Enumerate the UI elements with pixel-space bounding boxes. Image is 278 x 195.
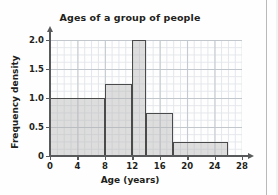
chart-title: Ages of a group of people — [0, 12, 260, 23]
y-tick-label: 1.0 — [29, 93, 44, 103]
x-axis-line — [49, 155, 249, 157]
x-tick-label: 20 — [181, 161, 193, 171]
x-tick-label: 12 — [126, 161, 138, 171]
page-edge-shadow — [276, 0, 278, 195]
x-tick-mark — [50, 156, 51, 160]
plot-area — [50, 40, 242, 156]
histogram-bar — [146, 113, 173, 157]
y-tick-label: 0.5 — [29, 122, 44, 132]
y-tick-mark — [46, 40, 50, 41]
y-axis-arrow-icon — [47, 26, 53, 32]
histogram-bar — [132, 40, 146, 156]
x-tick-mark — [187, 156, 188, 160]
y-axis-line — [49, 32, 51, 157]
y-tick-label: 2.0 — [29, 35, 44, 45]
x-axis-arrow-icon — [248, 153, 254, 159]
page-edge-rule — [266, 0, 267, 195]
x-axis-title: Age (years) — [0, 175, 260, 185]
x-tick-label: 8 — [102, 161, 108, 171]
x-tick-label: 4 — [74, 161, 80, 171]
y-axis-title: Frequency density — [10, 42, 20, 162]
x-tick-mark — [242, 156, 243, 160]
x-tick-mark — [215, 156, 216, 160]
x-tick-mark — [160, 156, 161, 160]
y-tick-label: 1.5 — [29, 64, 44, 74]
histogram-bar — [173, 142, 228, 157]
histogram-bar — [50, 98, 105, 156]
y-tick-mark — [46, 69, 50, 70]
x-tick-mark — [132, 156, 133, 160]
x-tick-label: 24 — [209, 161, 221, 171]
y-tick-mark — [46, 98, 50, 99]
histogram-bar — [105, 84, 132, 157]
chart-figure: Ages of a group of people 0481216202428 … — [0, 0, 278, 195]
y-tick-mark — [46, 156, 50, 157]
y-tick-mark — [46, 127, 50, 128]
y-tick-label: 0 — [38, 151, 44, 161]
x-tick-label: 0 — [47, 161, 53, 171]
x-tick-mark — [77, 156, 78, 160]
x-tick-mark — [105, 156, 106, 160]
x-tick-label: 16 — [154, 161, 166, 171]
x-tick-label: 28 — [236, 161, 248, 171]
